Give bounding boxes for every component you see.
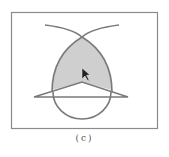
diagram-figure: (c) — [0, 0, 169, 157]
figure-caption: (c) — [0, 133, 169, 143]
